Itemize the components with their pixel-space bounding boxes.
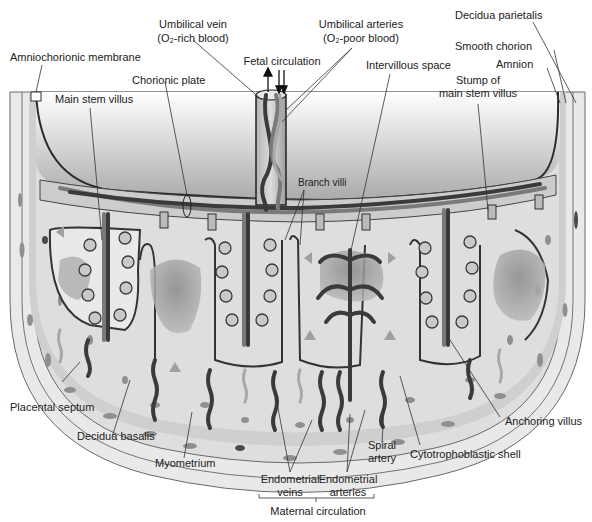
label-stump: Stump of [456,74,501,86]
label-smooth-chorion: Smooth chorion [455,40,532,52]
label-umbilical-vein: Umbilical vein [159,18,227,30]
label-placental-septum: Placental septum [10,401,94,413]
label-endometrial-arteries: Endometrial [319,473,378,485]
label-amniochorionic-membrane: Amniochorionic membrane [10,51,141,63]
label-maternal-circulation: Maternal circulation [270,505,365,517]
label-spiral-artery-sub: artery [368,452,397,464]
label-umbilical-arteries: Umbilical arteries [319,18,404,30]
fetal-circulation-arrows [264,68,287,93]
label-fetal-circulation: Fetal circulation [243,55,320,67]
label-stump-sub: main stem villus [439,87,518,99]
label-decidua-basalis: Decidua basalis [77,430,155,442]
label-endometrial-veins-sub: veins [277,486,303,498]
label-cytotrophoblastic-shell: Cytotrophoblastic shell [410,448,521,460]
label-myometrium: Myometrium [155,457,216,469]
label-main-stem-villus: Main stem villus [55,93,134,105]
amniochorionic-membrane-marker [31,92,41,101]
label-umbilical-vein-sub: (O₂-rich blood) [157,32,229,44]
placenta-diagram: Amniochorionic membrane Umbilical vein (… [0,0,592,522]
label-chorionic-plate: Chorionic plate [132,74,205,86]
label-endometrial-arteries-sub: arteries [330,486,367,498]
label-decidua-parietalis: Decidua parietalis [455,9,543,21]
label-intervillous-space: Intervillous space [366,59,451,71]
label-branch-villi: Branch villi [298,177,346,188]
label-spiral-artery: Spiral [368,439,396,451]
umbilical-cord [256,90,286,210]
label-anchoring-villus: Anchoring villus [505,415,583,427]
label-endometrial-veins: Endometrial [261,473,320,485]
label-umbilical-arteries-sub: (O₂-poor blood) [323,32,399,44]
label-amnion: Amnion [496,58,533,70]
